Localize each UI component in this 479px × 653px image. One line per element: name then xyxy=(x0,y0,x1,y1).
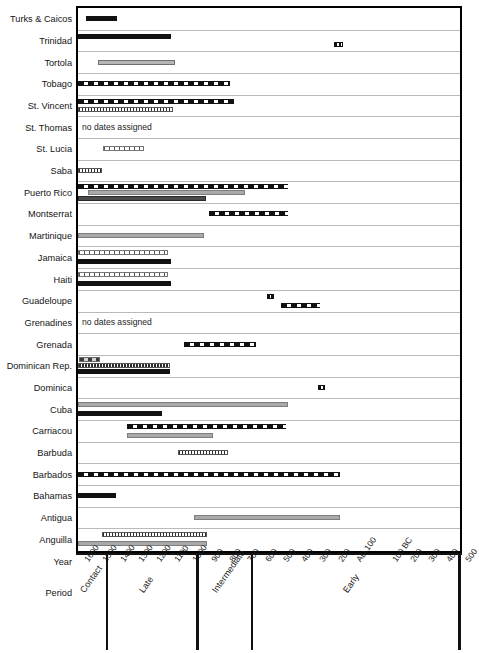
row-label-barbuda: Barbuda xyxy=(37,448,72,458)
bar-saba-1 xyxy=(78,168,102,173)
row-label-cuba: Cuba xyxy=(50,405,72,415)
period-label-early: Early xyxy=(341,572,361,595)
row-label-saba: Saba xyxy=(51,166,72,176)
period-axis-title: Period xyxy=(0,588,72,598)
plot-area: no dates assignedno dates assigned xyxy=(76,6,462,553)
gridline xyxy=(78,420,460,421)
bar-carriacou-2 xyxy=(127,433,213,438)
gridline xyxy=(78,181,460,182)
category-axis-labels: Turks & CaicosTrinidadTortolaTobagoSt. V… xyxy=(0,0,76,553)
row-label-dominican-rep: Dominican Rep. xyxy=(7,361,72,371)
period-separator-3 xyxy=(251,555,254,650)
bar-turks-caicos-1 xyxy=(86,16,117,21)
gridline xyxy=(78,333,460,334)
period-separator-2 xyxy=(196,555,199,650)
row-label-dominica: Dominica xyxy=(34,383,72,393)
bar-antigua-1 xyxy=(194,515,340,520)
row-label-anguilla: Anguilla xyxy=(39,535,72,545)
gridline xyxy=(78,442,460,443)
gridline xyxy=(78,138,460,139)
bar-haiti-2 xyxy=(78,281,171,286)
row-label-montserrat: Montserrat xyxy=(28,209,72,219)
period-label-contact: Contact xyxy=(78,564,104,595)
row-label-martinique: Martinique xyxy=(29,231,72,241)
gridline xyxy=(78,398,460,399)
bar-barbuda-1 xyxy=(178,450,228,455)
row-label-grenada: Grenada xyxy=(36,340,72,350)
row-label-grenadines: Grenadines xyxy=(25,318,73,328)
bar-grenada-1 xyxy=(184,342,256,347)
bar-cuba-1 xyxy=(78,402,288,407)
row-label-st-thomas: St. Thomas xyxy=(25,123,72,133)
bar-montserrat-1 xyxy=(209,211,289,216)
row-label-tobago: Tobago xyxy=(42,79,72,89)
bar-st-vincent-2 xyxy=(78,107,173,112)
bar-tortola-1 xyxy=(98,60,175,65)
bar-cuba-2 xyxy=(78,411,162,416)
year-axis-title: Year xyxy=(0,557,72,567)
gridline xyxy=(78,268,460,269)
row-label-trinidad: Trinidad xyxy=(39,36,72,46)
row-label-puerto-rico: Puerto Rico xyxy=(24,188,72,198)
period-separator-1 xyxy=(106,555,109,650)
gridline xyxy=(78,73,460,74)
row-label-turks-caicos: Turks & Caicos xyxy=(10,14,72,24)
bar-carriacou-1 xyxy=(127,424,286,429)
gridline xyxy=(78,485,460,486)
no-dates-note: no dates assigned xyxy=(82,122,152,132)
bar-trinidad-2 xyxy=(334,42,343,47)
bar-st-lucia-1 xyxy=(103,146,144,151)
bar-jamaica-2 xyxy=(78,259,171,264)
bar-puerto-rico-1 xyxy=(78,184,288,189)
gridline xyxy=(78,51,460,52)
gridline xyxy=(78,95,460,96)
bar-dominican-rep-2 xyxy=(78,363,170,368)
gridline xyxy=(78,160,460,161)
row-label-barbados: Barbados xyxy=(33,470,72,480)
gridline xyxy=(78,377,460,378)
bar-dominican-rep-3 xyxy=(78,369,170,374)
bar-trinidad-1 xyxy=(78,34,171,39)
bar-guadeloupe-2 xyxy=(281,303,320,308)
bar-puerto-rico-3 xyxy=(78,196,206,201)
bar-puerto-rico-2 xyxy=(88,190,245,195)
row-label-antigua: Antigua xyxy=(41,513,72,523)
bar-dominican-rep-1 xyxy=(79,357,100,362)
period-label-late: Late xyxy=(137,575,155,595)
x-axis-area: 1600150014001300120011001000900800700600… xyxy=(76,553,462,653)
bar-haiti-1 xyxy=(78,272,168,277)
bar-guadeloupe-1 xyxy=(267,294,274,299)
no-dates-note: no dates assigned xyxy=(82,317,152,327)
gridline xyxy=(78,463,460,464)
bar-st-vincent-1 xyxy=(78,99,234,104)
gridline xyxy=(78,355,460,356)
row-label-haiti: Haiti xyxy=(54,275,72,285)
gridline xyxy=(78,507,460,508)
gridline xyxy=(78,30,460,31)
bar-jamaica-1 xyxy=(78,250,168,255)
row-label-st-lucia: St. Lucia xyxy=(36,144,72,154)
gridline xyxy=(78,225,460,226)
row-label-bahamas: Bahamas xyxy=(33,491,72,501)
gridline xyxy=(78,203,460,204)
row-label-guadeloupe: Guadeloupe xyxy=(22,296,72,306)
gridline xyxy=(78,246,460,247)
bar-barbados-1 xyxy=(78,472,340,477)
gridline xyxy=(78,290,460,291)
bar-martinique-1 xyxy=(78,233,204,238)
row-label-st-vincent: St. Vincent xyxy=(28,101,72,111)
row-label-tortola: Tortola xyxy=(44,58,72,68)
bar-tobago-1 xyxy=(78,81,230,86)
gridline xyxy=(78,528,460,529)
gridline xyxy=(78,312,460,313)
plot-inner: no dates assignedno dates assigned xyxy=(78,8,460,551)
row-label-carriacou: Carriacou xyxy=(32,426,72,436)
period-separator-right xyxy=(458,555,461,650)
bar-anguilla-1 xyxy=(102,532,207,537)
row-label-jamaica: Jamaica xyxy=(38,253,72,263)
bar-dominica-1 xyxy=(318,385,324,390)
x-tick-20: 500 xyxy=(463,547,479,564)
gridline xyxy=(78,116,460,117)
bar-bahamas-1 xyxy=(78,493,116,498)
